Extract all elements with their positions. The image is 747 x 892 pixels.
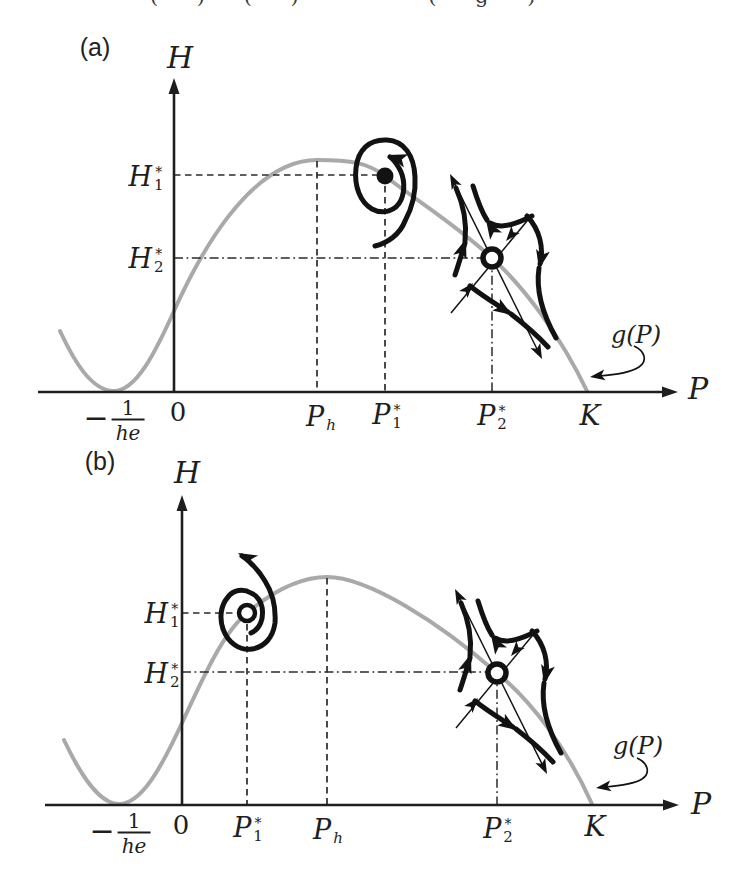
panel-b-xtick-zero: 0: [173, 812, 190, 838]
label-base: P: [306, 403, 324, 430]
minus-sign: −: [90, 815, 115, 845]
label-sub: 1: [253, 829, 263, 844]
panel-a-xtick-ph: Ph: [306, 402, 336, 430]
panel-b-ytick-h2: H*2: [144, 659, 179, 687]
label-sub: 2: [154, 260, 164, 275]
panel-a-tag: (a): [80, 35, 111, 60]
gP-curve: [60, 160, 587, 391]
label-base: P: [233, 814, 251, 841]
panel-a-xtick-zero: 0: [170, 399, 187, 425]
panel-b-xtick-k: K: [585, 813, 606, 841]
stable-focus-dot: [377, 168, 394, 185]
panel-a-ytick-h2: H*2: [128, 244, 163, 272]
panel-a-xtick-neg-1-he: − 1he: [84, 397, 145, 444]
label-sub: 1: [392, 416, 402, 431]
panel-b-xtick-p1: P*1: [233, 813, 263, 841]
panel-b-yaxis-label: H: [174, 458, 200, 488]
label-base: P: [483, 815, 501, 842]
frac-denominator: he: [112, 419, 145, 444]
panel-b-xtick-ph: Ph: [313, 815, 343, 843]
gP-pointer-squiggle: [599, 346, 644, 376]
panel-a-yaxis-label: H: [167, 43, 193, 73]
label-sub: 2: [170, 675, 180, 690]
label-sub: 2: [497, 417, 507, 432]
panel-b-tag: (b): [85, 449, 116, 474]
label-base: H: [128, 245, 152, 272]
label-base: P: [477, 402, 495, 429]
label-sub: h: [333, 831, 343, 846]
panel-a-xtick-p2: P*2: [477, 401, 507, 429]
panel-a-ytick-h1: H*1: [128, 162, 163, 190]
panel-a-xtick-p1: P*1: [372, 400, 402, 428]
frac-numerator: 1: [128, 810, 141, 832]
p-axis-arrow: [662, 387, 678, 398]
panel-b-curve-label: g(P): [613, 734, 663, 758]
panel-a-curve-label: g(P): [611, 323, 661, 347]
h-axis-arrow: [177, 495, 188, 511]
panel-b-xtick-neg-1-he: − 1he: [90, 810, 151, 857]
label-sub: 2: [503, 830, 513, 845]
figure-page: ( ) ( ) · · ( g ): [0, 0, 747, 892]
panel-a-xtick-k: K: [580, 402, 601, 430]
p-axis-arrow: [663, 800, 679, 811]
label-sub: 1: [170, 615, 180, 630]
label-sub: 1: [154, 178, 164, 193]
label-base: H: [144, 600, 168, 627]
unstable-focus-circle: [239, 605, 255, 621]
panel-a-drawing: [38, 78, 678, 398]
gP-pointer-squiggle: [605, 758, 647, 787]
frac-denominator: he: [118, 832, 151, 857]
h-axis-arrow: [169, 78, 180, 94]
label-base: H: [144, 660, 168, 687]
label-base: P: [313, 816, 331, 843]
frac-numerator: 1: [122, 397, 135, 419]
label-base: P: [372, 401, 390, 428]
panel-b-xaxis-label: P: [691, 789, 711, 819]
label-sub: h: [326, 418, 336, 433]
panel-b-drawing: [45, 495, 679, 811]
minus-sign: −: [84, 402, 109, 432]
panel-b-xtick-p2: P*2: [483, 814, 513, 842]
panel-a-xaxis-label: P: [688, 374, 708, 404]
label-base: H: [128, 163, 152, 190]
panel-b-ytick-h1: H*1: [144, 599, 179, 627]
gP-curve: [64, 577, 592, 804]
